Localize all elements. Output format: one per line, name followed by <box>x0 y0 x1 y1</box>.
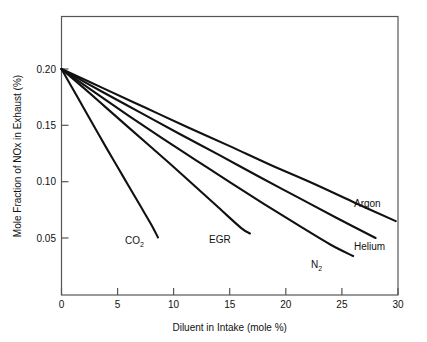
y-tick-label: 0.10 <box>37 176 57 187</box>
nox-dilution-chart: 0 5 10 15 20 25 30 0.05 0.10 0.15 0.20 D… <box>0 0 427 342</box>
x-tick-label: 20 <box>280 299 292 310</box>
y-tick-label: 0.05 <box>37 233 57 244</box>
series-label-helium: Helium <box>354 241 385 252</box>
x-tick-label: 10 <box>168 299 180 310</box>
series-label-argon: Argon <box>354 198 381 209</box>
series-label-egr: EGR <box>209 234 231 245</box>
x-tick-label: 25 <box>336 299 348 310</box>
x-axis-title: Diluent in Intake (mole %) <box>172 322 287 333</box>
x-tick-label: 30 <box>392 299 404 310</box>
x-tick-label: 15 <box>224 299 236 310</box>
y-tick-label: 0.15 <box>37 120 57 131</box>
x-tick-label: 0 <box>59 299 65 310</box>
y-axis-title: Mole Fraction of NOx in Exhaust (%) <box>12 75 23 237</box>
y-tick-label: 0.20 <box>37 64 57 75</box>
x-tick-label: 5 <box>115 299 121 310</box>
